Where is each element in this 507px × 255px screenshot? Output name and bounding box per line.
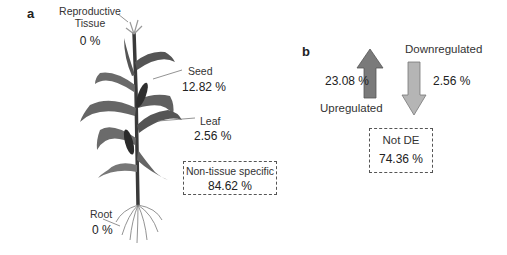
reproductive-tissue-percent: 0 % [55,34,125,48]
non-tissue-specific-box: Non-tissue specific 84.62 % [183,161,277,195]
downregulated-arrow-icon [402,62,426,115]
downregulated-label: Downregulated [405,43,482,55]
panel-a-label: a [27,6,34,21]
non-tissue-specific-percent: 84.62 % [184,179,276,193]
root-label: Root [90,208,112,220]
seed-percent: 12.82 % [182,80,226,94]
leaf-label: Leaf [200,115,220,127]
leaf-percent: 2.56 % [194,129,231,143]
downregulated-percent: 2.56 % [433,74,470,88]
not-de-box: Not DE 74.36 % [369,128,433,173]
seed-label: Seed [188,65,213,77]
root-percent: 0 % [92,223,113,237]
not-de-percent: 74.36 % [370,152,432,166]
upregulated-label: Upregulated [320,102,383,114]
reproductive-tissue-label: Reproductive Tissue 0 % [55,5,125,48]
panel-b-label: b [302,44,310,59]
upregulated-percent: 23.08 % [325,74,369,88]
